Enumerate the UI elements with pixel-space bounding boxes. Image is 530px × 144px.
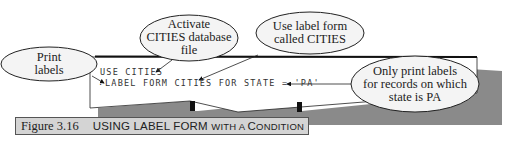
command-prompt-dot: . [98, 77, 104, 87]
title-part: ONDITION [256, 121, 304, 132]
callout-print-labels: Print labels [10, 51, 88, 77]
callout-line: state is PA [355, 91, 475, 104]
callout-only-print: Only print labels for records on which s… [355, 65, 475, 104]
callout-line: called CITIES [258, 33, 362, 46]
title-part: C [248, 120, 257, 132]
callout-line: file [140, 44, 238, 57]
page-tab [297, 102, 302, 112]
title-part: WITH A [211, 121, 247, 132]
code-line-label-form: LABEL FORM CITIES FOR STATE = 'PA' [105, 78, 320, 88]
figure-title: USING LABEL FORM WITH A CONDITION [93, 120, 304, 132]
callout-use-label-form: Use label form called CITIES [258, 20, 362, 46]
title-part: USING LABEL FORM [93, 120, 212, 132]
callout-activate-cities: Activate CITIES database file [140, 18, 238, 57]
code-line-use: USE CITIES [100, 67, 163, 77]
page-tab [190, 101, 195, 111]
callout-line: labels [10, 64, 88, 77]
figure-caption: Figure 3.16 USING LABEL FORM WITH A COND… [15, 117, 309, 135]
figure-number: Figure 3.16 [21, 119, 79, 134]
